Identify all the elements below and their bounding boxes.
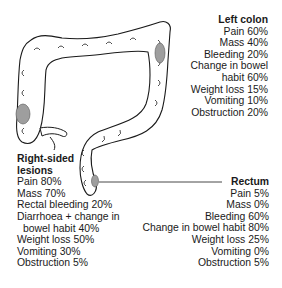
rectum-item: Change in bowel habit 80% <box>142 222 269 234</box>
rectum-item: Weight loss 25% <box>142 234 269 246</box>
lesion-right-colon <box>16 104 30 124</box>
left-colon-item: Vomiting 10% <box>191 95 268 107</box>
left-colon-item: Mass 40% <box>191 37 268 49</box>
rectum-item: Mass 0% <box>142 199 269 211</box>
lesion-left-colon <box>155 43 165 63</box>
right-sided-item: Diarrhoea + change in <box>17 211 120 223</box>
rectum-block: Rectum Pain 5% Mass 0% Bleeding 60% Chan… <box>142 176 269 269</box>
right-sided-title: Right-sided <box>17 153 120 165</box>
appendix <box>40 127 67 150</box>
right-sided-item: Pain 80% <box>17 176 120 188</box>
left-colon-item: Bleeding 20% <box>191 49 268 61</box>
right-sided-item: Vomiting 30% <box>17 246 120 258</box>
rectum-title: Rectum <box>142 176 269 188</box>
left-colon-item: Pain 60% <box>191 26 268 38</box>
left-colon-item: habit 60% <box>191 72 268 84</box>
right-sided-item: Obstruction 5% <box>17 257 120 269</box>
right-sided-title-2: lesions <box>17 165 120 177</box>
right-sided-item: bowel habit 40% <box>17 223 120 235</box>
rectum-item: Pain 5% <box>142 188 269 200</box>
rectum-item: Obstruction 5% <box>142 257 269 269</box>
left-colon-title: Left colon <box>191 14 268 26</box>
rectum-item: Vomiting 0% <box>142 246 269 258</box>
right-sided-item: Weight loss 50% <box>17 234 120 246</box>
left-colon-block: Left colon Pain 60% Mass 40% Bleeding 20… <box>191 14 268 118</box>
left-colon-item: Obstruction 20% <box>191 107 268 119</box>
right-sided-block: Right-sided lesions Pain 80% Mass 70% Re… <box>17 153 120 269</box>
left-colon-item: Change in bowel <box>191 60 268 72</box>
right-sided-item: Rectal bleeding 20% <box>17 199 120 211</box>
left-colon-item: Weight loss 15% <box>191 84 268 96</box>
right-sided-item: Mass 70% <box>17 188 120 200</box>
rectum-item: Bleeding 60% <box>142 211 269 223</box>
